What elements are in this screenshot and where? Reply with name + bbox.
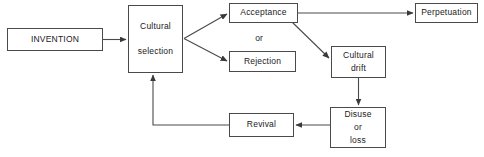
- node-disuse-or-loss[interactable]: Disuse or loss: [330, 107, 386, 148]
- node-cultural-drift-label-line-2: drift: [351, 62, 366, 75]
- edge-cultural-selection-to-rejection: [184, 39, 227, 62]
- node-cultural-selection-label-line-1: Cultural: [140, 20, 171, 33]
- node-cultural-selection-label-line-2: selection: [138, 45, 173, 58]
- connector-label-or: or: [247, 33, 271, 43]
- node-disuse-or-loss-label-line-3: loss: [350, 134, 366, 147]
- edge-acceptance-to-cultural-drift: [292, 22, 329, 58]
- node-invention[interactable]: INVENTION: [7, 28, 103, 51]
- node-disuse-or-loss-label-line-1: Disuse: [344, 108, 371, 121]
- node-acceptance[interactable]: Acceptance: [229, 3, 298, 23]
- node-invention-label: INVENTION: [31, 33, 79, 46]
- node-rejection[interactable]: Rejection: [229, 51, 296, 72]
- node-perpetuation[interactable]: Perpetuation: [415, 3, 478, 23]
- edge-cultural-selection-to-acceptance: [184, 14, 227, 39]
- flow-diagram: INVENTION Cultural selection Acceptance …: [0, 0, 484, 157]
- node-revival-label: Revival: [247, 118, 276, 131]
- node-rejection-label: Rejection: [244, 55, 281, 68]
- node-cultural-drift[interactable]: Cultural drift: [331, 46, 386, 78]
- node-revival[interactable]: Revival: [229, 113, 294, 137]
- node-acceptance-label: Acceptance: [240, 6, 286, 19]
- edge-revival-to-cultural-selection: [153, 75, 229, 125]
- node-disuse-or-loss-label-line-2: or: [354, 121, 362, 134]
- node-perpetuation-label: Perpetuation: [421, 6, 472, 19]
- node-cultural-selection[interactable]: Cultural selection: [128, 5, 183, 73]
- node-cultural-drift-label-line-1: Cultural: [343, 49, 374, 62]
